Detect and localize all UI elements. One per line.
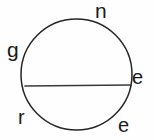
label-bottom-left: r bbox=[18, 107, 25, 127]
label-bottom-right: e bbox=[118, 115, 129, 135]
chord-line bbox=[25, 85, 131, 86]
label-right: e bbox=[132, 67, 143, 87]
circle-outline bbox=[21, 19, 132, 130]
label-top: n bbox=[95, 0, 107, 21]
figure-canvas: n g e r e bbox=[0, 0, 154, 140]
label-left: g bbox=[7, 39, 19, 60]
